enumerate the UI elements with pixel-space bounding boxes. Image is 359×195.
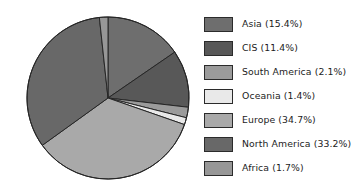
legend-item[interactable]: Asia (15.4%) [204, 15, 302, 33]
legend-item[interactable]: Africa (1.7%) [204, 159, 304, 177]
legend-item-label: South America (2.1%) [242, 67, 346, 76]
legend-item-label: Asia (15.4%) [242, 19, 302, 28]
legend-item-label: Africa (1.7%) [242, 163, 304, 172]
legend-item[interactable]: Oceania (1.4%) [204, 87, 315, 105]
pie-chart-figure: Asia (15.4%)CIS (11.4%)South America (2.… [0, 0, 359, 195]
pie-plot-area [0, 0, 200, 195]
legend-item[interactable]: South America (2.1%) [204, 63, 346, 81]
legend-swatch [204, 41, 233, 56]
legend-item[interactable]: Europe (34.7%) [204, 111, 316, 129]
legend-item-label: Europe (34.7%) [242, 115, 316, 124]
legend-item[interactable]: North America (33.2%) [204, 135, 351, 153]
legend-swatch [204, 137, 233, 152]
legend-item[interactable]: CIS (11.4%) [204, 39, 298, 57]
legend-swatch [204, 113, 233, 128]
pie-svg [0, 0, 200, 195]
legend-item-label: CIS (11.4%) [242, 43, 298, 52]
chart-legend: Asia (15.4%)CIS (11.4%)South America (2.… [200, 0, 359, 195]
legend-swatch [204, 65, 233, 80]
legend-item-label: North America (33.2%) [242, 139, 351, 148]
legend-swatch [204, 161, 233, 176]
legend-swatch [204, 89, 233, 104]
legend-item-label: Oceania (1.4%) [242, 91, 315, 100]
legend-swatch [204, 17, 233, 32]
